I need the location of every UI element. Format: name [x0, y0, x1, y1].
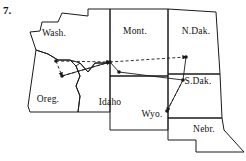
graph-node-n2	[60, 74, 64, 78]
state-label-wyo: Wyo.	[141, 109, 162, 119]
state-map: Wash.Mont.N.Dak.Oreg.IdahoS.Dak.Wyo.Nebr…	[0, 0, 246, 161]
graph-node-n3	[108, 60, 112, 64]
solid-edges	[62, 57, 186, 111]
e-solid-1	[110, 62, 119, 72]
graph-node-n1	[54, 59, 58, 63]
state-label-idaho: Idaho	[99, 97, 122, 107]
map-figure: 7. Wash.Mont.N.Dak.Oreg.IdahoS.Dak.Wyo.N…	[0, 0, 246, 161]
graph-node-n7	[165, 109, 169, 113]
state-label-mont: Mont.	[123, 26, 147, 36]
state-label-sdak: S.Dak.	[184, 76, 211, 86]
e-dash-3	[110, 57, 186, 62]
montana-outline	[110, 9, 168, 76]
e-dash-1	[56, 61, 110, 62]
state-label-oreg: Oreg.	[37, 94, 59, 104]
north-dakota-outline	[168, 9, 220, 74]
state-label-ndak: N.Dak.	[182, 26, 211, 36]
graph-node-n5	[184, 55, 188, 59]
state-label-nebr: Nebr.	[193, 124, 215, 134]
e-dash-4	[56, 61, 62, 76]
graph-node-n4	[117, 70, 121, 74]
state-label-wash: Wash.	[42, 28, 66, 38]
